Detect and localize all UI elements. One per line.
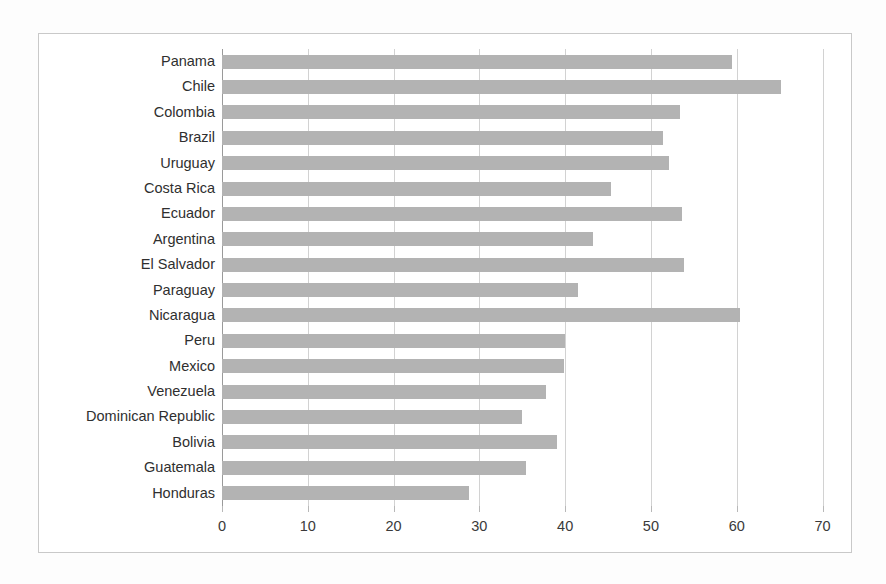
category-label: Honduras [152,483,215,503]
bar [222,308,740,322]
bar [222,359,564,373]
bar-row: Nicaragua [222,303,823,328]
bar [222,207,682,221]
category-label: Uruguay [160,153,215,173]
bar-row: Venezuela [222,379,823,404]
category-label: Dominican Republic [86,406,215,426]
bar [222,156,669,170]
category-label: Argentina [153,229,215,249]
bar [222,435,557,449]
category-label: Paraguay [153,280,215,300]
category-label: Ecuador [161,203,215,223]
bar-row: Argentina [222,227,823,252]
x-tick-label: 10 [300,518,316,534]
tick-mark-50 [651,506,652,512]
bar [222,410,522,424]
bar-row: Panama [222,49,823,74]
x-tick-label: 0 [218,518,226,534]
category-label: Brazil [179,127,215,147]
chart-frame: PanamaChileColombiaBrazilUruguayCosta Ri… [38,33,852,553]
gridline-70 [823,49,824,506]
bar-row: El Salvador [222,252,823,277]
category-label: Guatemala [144,457,215,477]
category-label: Nicaragua [149,305,215,325]
bar [222,283,578,297]
bar-row: Dominican Republic [222,404,823,429]
category-label: Bolivia [172,432,215,452]
tick-mark-60 [737,506,738,512]
category-label: Costa Rica [144,178,215,198]
plot-area: PanamaChileColombiaBrazilUruguayCosta Ri… [222,49,823,506]
bar-row: Honduras [222,481,823,506]
bar-row: Guatemala [222,455,823,480]
tick-mark-20 [394,506,395,512]
bar [222,232,593,246]
bar [222,385,546,399]
bar [222,131,663,145]
category-label: Mexico [169,356,215,376]
bar [222,55,732,69]
bar-row: Ecuador [222,201,823,226]
bar-row: Chile [222,74,823,99]
bar [222,334,565,348]
tick-mark-0 [222,506,223,512]
category-label: Panama [161,51,215,71]
bar [222,258,684,272]
x-tick-label: 40 [557,518,573,534]
category-label: Venezuela [147,381,215,401]
tick-mark-40 [565,506,566,512]
x-tick-label: 20 [385,518,401,534]
category-label: Chile [182,76,215,96]
bar-row: Paraguay [222,278,823,303]
bar-row: Uruguay [222,151,823,176]
bar-row: Mexico [222,354,823,379]
bar-row: Brazil [222,125,823,150]
x-tick-label: 30 [471,518,487,534]
bar [222,80,781,94]
category-label: El Salvador [141,254,215,274]
tick-mark-70 [823,506,824,512]
tick-mark-10 [308,506,309,512]
tick-mark-30 [479,506,480,512]
bar-row: Peru [222,328,823,353]
bar [222,486,469,500]
category-label: Peru [184,330,215,350]
x-tick-label: 60 [729,518,745,534]
chart-figure: PanamaChileColombiaBrazilUruguayCosta Ri… [0,0,886,584]
bar [222,461,526,475]
bar-row: Bolivia [222,430,823,455]
bar-row: Costa Rica [222,176,823,201]
bar [222,182,611,196]
x-tick-label: 70 [814,518,830,534]
bar [222,105,680,119]
x-tick-label: 50 [643,518,659,534]
category-label: Colombia [154,102,215,122]
bar-row: Colombia [222,100,823,125]
